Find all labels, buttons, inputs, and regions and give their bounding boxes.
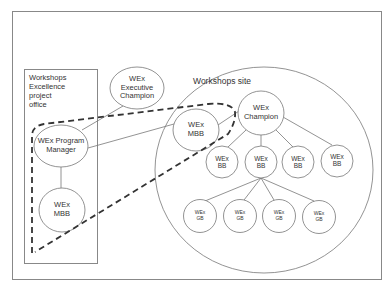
label-gb-4: WEx GB — [314, 211, 325, 223]
label-line: BB — [254, 162, 268, 169]
office-label-line: Excellence — [29, 82, 66, 91]
office-label-line: Workshops — [29, 73, 66, 82]
label-line: BB — [330, 160, 344, 167]
site-title: Workshops site — [193, 76, 251, 86]
edge-bb2-to-gb4 — [261, 178, 314, 201]
office-label-line: project — [29, 91, 66, 100]
label-line: MBB — [54, 210, 70, 219]
label-line: WEx — [291, 155, 305, 162]
edge-champion-to-bb1 — [228, 130, 246, 147]
label-bb-2: WEx BB — [254, 155, 268, 170]
edge-champion-to-bb4 — [283, 117, 332, 145]
label-bb-3: WEx BB — [291, 155, 305, 170]
label-gb-1: WEx GB — [195, 210, 206, 222]
label-line: Manager — [38, 146, 85, 155]
label-gb-3: WEx GB — [274, 210, 285, 222]
label-champion: WEx Champion — [244, 104, 278, 121]
edge-champion-to-bb3 — [276, 130, 293, 147]
label-line: BB — [215, 162, 229, 169]
label-office-mbb: WEx MBB — [54, 201, 70, 218]
label-gb-2: WEx GB — [235, 210, 246, 222]
edge-bb2-to-gb3 — [261, 178, 274, 200]
label-bb-4: WEx BB — [330, 153, 344, 168]
label-line: GB — [195, 216, 206, 222]
label-line: WEx — [330, 153, 344, 160]
label-line: WEx — [215, 155, 229, 162]
label-line: Champion — [244, 113, 278, 122]
label-line: GB — [274, 216, 285, 222]
office-label: Workshops Excellence project office — [29, 73, 66, 109]
label-line: WEx — [254, 155, 268, 162]
label-exec-champion: WEx Executive Champion — [120, 75, 154, 101]
label-line: BB — [291, 162, 305, 169]
office-label-line: office — [29, 100, 66, 109]
label-bb-1: WEx BB — [215, 155, 229, 170]
label-program-manager: WEx Program Manager — [38, 137, 85, 154]
label-line: GB — [235, 216, 246, 222]
label-line: Champion — [120, 92, 154, 101]
label-line: MBB — [188, 130, 204, 139]
label-site-mbb: WEx MBB — [188, 121, 204, 138]
label-line: GB — [314, 217, 325, 223]
